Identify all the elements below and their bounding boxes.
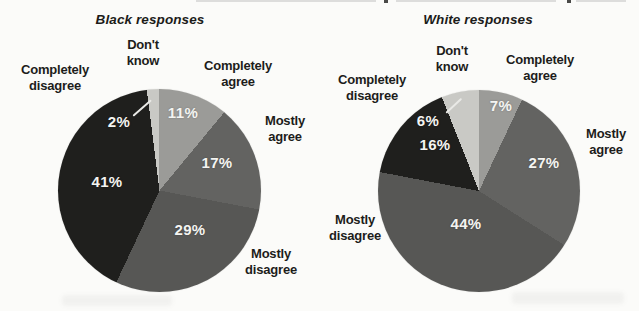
slice-label-completely-disagree: Completely disagree — [5, 62, 105, 94]
slice-label-mostly-disagree: Mostly disagree — [234, 246, 308, 278]
value-label-mostly-agree: 17% — [201, 154, 232, 171]
value-label-mostly-agree: 27% — [528, 154, 559, 171]
value-label-dont-know: 2% — [108, 113, 130, 130]
chart-title-black-responses: Black responses — [65, 12, 235, 27]
value-label-completely-agree: 11% — [168, 104, 198, 121]
value-label-dont-know: 6% — [417, 112, 439, 129]
slice-label-completely-agree: Completely agree — [188, 58, 288, 90]
page-showthrough-artifact — [62, 295, 172, 306]
pie-chart-black-responses — [58, 89, 261, 292]
value-label-completely-agree: 7% — [490, 97, 512, 114]
slice-label-mostly-agree: Mostly agree — [575, 126, 637, 158]
value-label-completely-disagree: 41% — [91, 173, 122, 190]
page-showthrough-artifact — [512, 292, 624, 304]
cropped-heading-artifact — [396, 0, 556, 2]
pie-chart-white-responses — [378, 90, 580, 292]
value-label-mostly-disagree: 44% — [450, 215, 481, 232]
slice-label-dont-know: Don't know — [113, 37, 173, 69]
cropped-heading-artifact — [576, 0, 626, 2]
cropped-heading-artifact — [384, 0, 388, 3]
slice-label-dont-know: Don't know — [422, 43, 482, 75]
slice-label-mostly-agree: Mostly agree — [254, 113, 316, 145]
slice-label-mostly-disagree: Mostly disagree — [318, 212, 392, 244]
value-label-mostly-disagree: 29% — [174, 221, 205, 238]
slice-label-completely-disagree: Completely disagree — [322, 72, 422, 104]
cropped-heading-artifact — [567, 0, 571, 3]
slice-label-completely-agree: Completely agree — [490, 52, 590, 84]
value-label-completely-disagree: 16% — [419, 136, 450, 153]
chart-title-white-responses: White responses — [393, 12, 563, 27]
cropped-heading-artifact — [196, 0, 376, 2]
scanned-page: Black responses Don't know Completely di… — [0, 0, 639, 311]
